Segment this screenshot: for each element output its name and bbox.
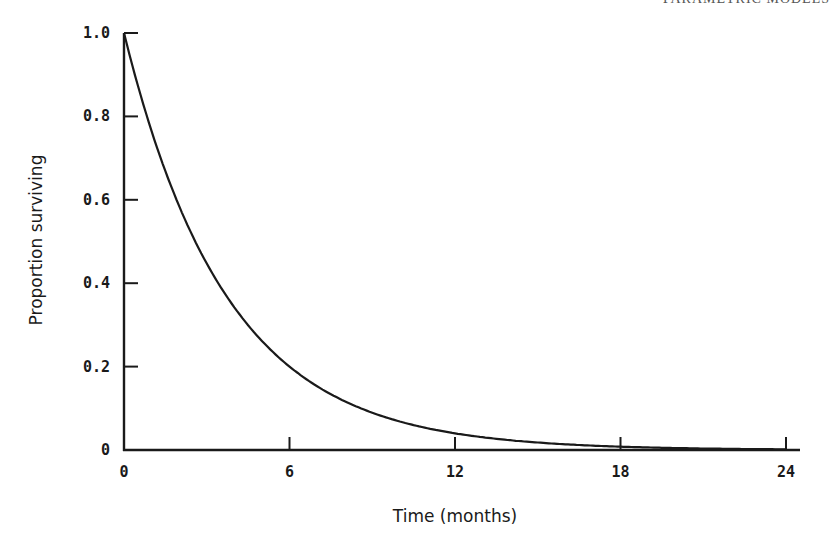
x-tick-label: 24 bbox=[777, 463, 795, 481]
x-tick-label: 12 bbox=[446, 463, 464, 481]
y-tick-label: 0.8 bbox=[83, 107, 110, 125]
y-tick-label: 0.6 bbox=[83, 191, 110, 209]
x-tick-label: 18 bbox=[611, 463, 629, 481]
y-tick-label: 0.4 bbox=[83, 274, 110, 292]
x-axis-title: Time (months) bbox=[392, 506, 517, 526]
y-tick-label: 0 bbox=[101, 441, 110, 459]
x-tick-label: 0 bbox=[119, 463, 128, 481]
axes: 00.20.40.60.81.006121824 bbox=[83, 24, 800, 481]
survival-chart: 00.20.40.60.81.006121824 Time (months) P… bbox=[0, 0, 830, 550]
survival-curve bbox=[124, 33, 786, 449]
y-axis-title: Proportion surviving bbox=[26, 155, 46, 326]
y-tick-label: 1.0 bbox=[83, 24, 110, 42]
y-tick-label: 0.2 bbox=[83, 358, 110, 376]
x-tick-label: 6 bbox=[285, 463, 294, 481]
